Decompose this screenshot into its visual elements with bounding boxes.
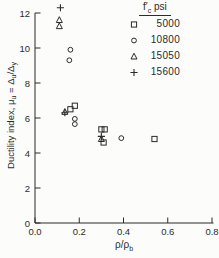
- y-tick-label: 10: [19, 43, 30, 54]
- legend-item-label: 15050: [142, 50, 180, 61]
- legend-items: 5000108001505015600: [126, 16, 208, 80]
- circle-marker-icon: [126, 34, 142, 46]
- legend-item-label: 5000: [142, 18, 180, 29]
- circle-marker-icon: [72, 116, 77, 121]
- legend-item: 15600: [126, 64, 208, 80]
- square-marker-icon: [126, 18, 142, 30]
- legend-item: 15050: [126, 48, 208, 64]
- plus-marker-icon: [57, 4, 64, 11]
- series-10800: [67, 47, 124, 140]
- triangle-marker-icon: [126, 50, 142, 62]
- legend-title-part: psi: [151, 1, 167, 12]
- series-15050: [56, 17, 104, 142]
- x-tick-label: 0.2: [73, 226, 86, 237]
- triangle-marker-icon: [131, 53, 137, 59]
- legend-item: 5000: [126, 16, 208, 32]
- y-tick-label: 6: [25, 113, 30, 124]
- square-marker-icon: [102, 127, 107, 132]
- y-tick-label: 8: [25, 78, 30, 89]
- plus-marker-icon: [98, 133, 105, 140]
- legend: f′c psi 5000108001505015600: [126, 1, 208, 80]
- square-marker-icon: [152, 136, 157, 141]
- y-tick-label: 2: [25, 183, 30, 194]
- series-5000: [68, 103, 157, 145]
- legend-item: 10800: [126, 32, 208, 48]
- figure-container: Ductility index, μu = Δu/Δy 0246810120.0…: [0, 0, 219, 258]
- series-15600: [57, 4, 105, 140]
- circle-marker-icon: [72, 122, 77, 127]
- x-tick-label: 0.4: [117, 226, 130, 237]
- plus-marker-icon: [126, 66, 142, 78]
- legend-title: f′c psi: [139, 1, 171, 16]
- legend-item-label: 15600: [142, 66, 180, 77]
- y-tick-label: 12: [19, 8, 30, 19]
- y-tick-label: 4: [25, 148, 30, 159]
- circle-marker-icon: [132, 38, 137, 43]
- circle-marker-icon: [119, 136, 124, 141]
- legend-item-label: 10800: [142, 34, 180, 45]
- x-tick-label: 0.6: [161, 226, 174, 237]
- square-marker-icon: [131, 21, 136, 26]
- x-axis-label-part: b: [129, 245, 133, 252]
- triangle-marker-icon: [56, 23, 62, 29]
- x-axis-label-part: ρ/ρ: [115, 239, 129, 250]
- x-tick-label: 0.0: [28, 226, 41, 237]
- square-marker-icon: [99, 127, 104, 132]
- x-tick-label: 0.8: [205, 226, 218, 237]
- circle-marker-icon: [68, 47, 73, 52]
- circle-marker-icon: [67, 58, 72, 63]
- triangle-marker-icon: [56, 17, 62, 23]
- x-axis-label: ρ/ρb: [35, 239, 213, 252]
- plus-marker-icon: [130, 68, 137, 75]
